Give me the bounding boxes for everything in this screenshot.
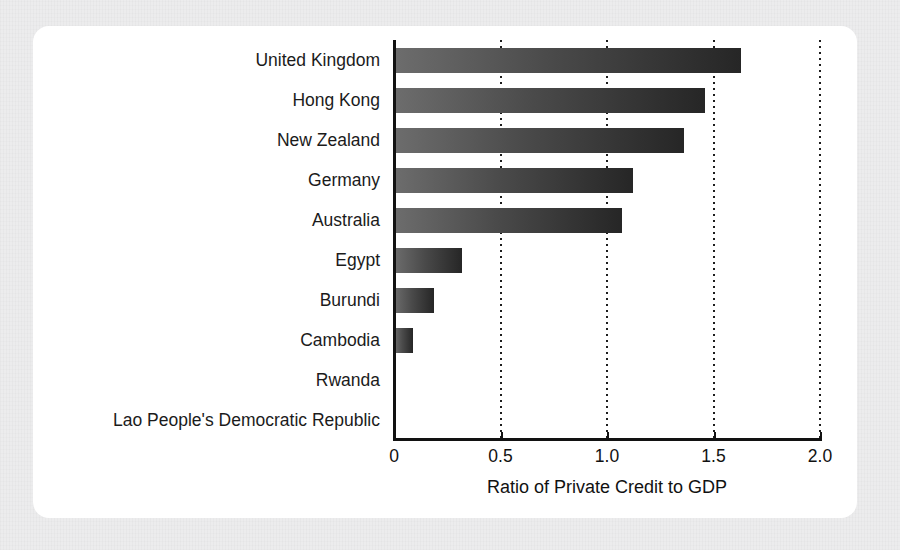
y-axis-label-8: Rwanda — [20, 360, 388, 400]
x-axis-tick-1 — [501, 432, 503, 440]
bar-1 — [394, 88, 705, 113]
y-axis-label-2: New Zealand — [20, 120, 388, 160]
y-axis-label-6: Burundi — [20, 280, 388, 320]
x-axis-ticklabel-2: 1.0 — [595, 446, 619, 467]
x-axis-tick-2 — [607, 432, 609, 440]
x-axis-ticklabel-1: 0.5 — [488, 446, 512, 467]
x-axis-ticklabel-0: 0 — [389, 446, 399, 467]
bar-4 — [394, 208, 622, 233]
bar-series — [394, 40, 834, 440]
bar-2 — [394, 128, 684, 153]
x-axis-ticklabel-4: 2.0 — [808, 446, 832, 467]
bar-row — [394, 360, 834, 400]
x-axis-tick-4 — [820, 432, 822, 440]
y-axis-label-5: Egypt — [20, 240, 388, 280]
bar-7 — [394, 328, 413, 353]
bar-3 — [394, 168, 633, 193]
bar-row — [394, 80, 834, 120]
bar-chart: United Kingdom Hong Kong New Zealand Ger… — [0, 0, 900, 550]
x-axis-ticklabel-3: 1.5 — [701, 446, 725, 467]
bar-row — [394, 280, 834, 320]
y-axis-label-3: Germany — [20, 160, 388, 200]
y-axis-line — [393, 40, 396, 440]
bar-row — [394, 40, 834, 80]
bar-row — [394, 320, 834, 360]
x-axis-tick-3 — [714, 432, 716, 440]
y-axis-label-1: Hong Kong — [20, 80, 388, 120]
bar-6 — [394, 288, 434, 313]
y-axis-label-7: Cambodia — [20, 320, 388, 360]
bar-row — [394, 400, 834, 440]
y-axis-label-9: Lao People's Democratic Republic — [20, 400, 388, 440]
bar-row — [394, 120, 834, 160]
bar-row — [394, 240, 834, 280]
bar-0 — [394, 48, 741, 73]
bar-5 — [394, 248, 462, 273]
bar-row — [394, 160, 834, 200]
bar-row — [394, 200, 834, 240]
y-axis-label-0: United Kingdom — [20, 40, 388, 80]
x-axis-tick-0 — [394, 432, 396, 440]
chart-page: United Kingdom Hong Kong New Zealand Ger… — [0, 0, 900, 550]
y-axis-label-4: Australia — [20, 200, 388, 240]
y-axis-category-labels: United Kingdom Hong Kong New Zealand Ger… — [20, 40, 388, 440]
x-axis-title: Ratio of Private Credit to GDP — [394, 477, 820, 498]
